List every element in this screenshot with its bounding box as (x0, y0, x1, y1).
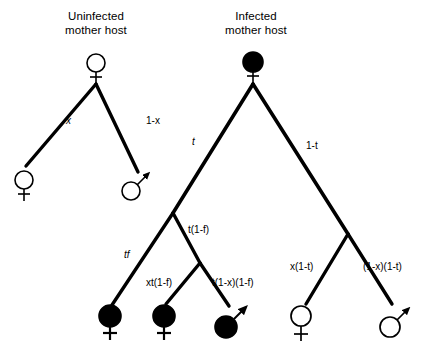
infected-edge-tf (112, 213, 173, 305)
edge-label-xt-one-minus-f: xt(1-f) (146, 277, 172, 288)
uninfected-leaf-x1t-female-symbol (291, 306, 311, 341)
edge-label-tf: tf (124, 249, 130, 260)
transmission-tree-figure: Uninfected mother host Infected mother h… (0, 0, 428, 354)
edge-label-t-one-minus-f: t(1-f) (188, 224, 209, 235)
uninfected-son-symbol (122, 175, 147, 200)
tree-graphics (0, 0, 428, 354)
uninfected-mother-symbol (87, 54, 105, 84)
uninfected-daughter-symbol (15, 171, 33, 201)
edge-label-t-one-minus-x-one-minus-f: t(1-x)(1-f) (212, 277, 254, 288)
edge-label-one-minus-x: 1-x (146, 115, 160, 126)
uninfected-leaf-1x1t-male-symbol (380, 310, 407, 337)
infected-leaf-t1x-male-symbol (215, 309, 244, 338)
infected-edge-one-minus-t (253, 84, 348, 234)
edge-label-one-minus-x-one-minus-t: (1-x)(1-t) (363, 261, 402, 272)
uninfected-edge-x (26, 84, 96, 166)
infected-leaf-tf-female-symbol (99, 305, 121, 340)
edge-label-x: x (66, 115, 71, 126)
edge-label-x-one-minus-t: x(1-t) (290, 261, 313, 272)
infected-mother-symbol (243, 52, 263, 84)
edge-label-one-minus-t: 1-t (306, 140, 318, 151)
infected-leaf-xt-female-symbol (153, 305, 175, 340)
infected-edge-t-one-minus-f (173, 213, 200, 263)
uninfected-edge-one-minus-x (96, 84, 138, 172)
infected-edge-t (173, 84, 253, 213)
edge-label-t: t (192, 136, 195, 147)
